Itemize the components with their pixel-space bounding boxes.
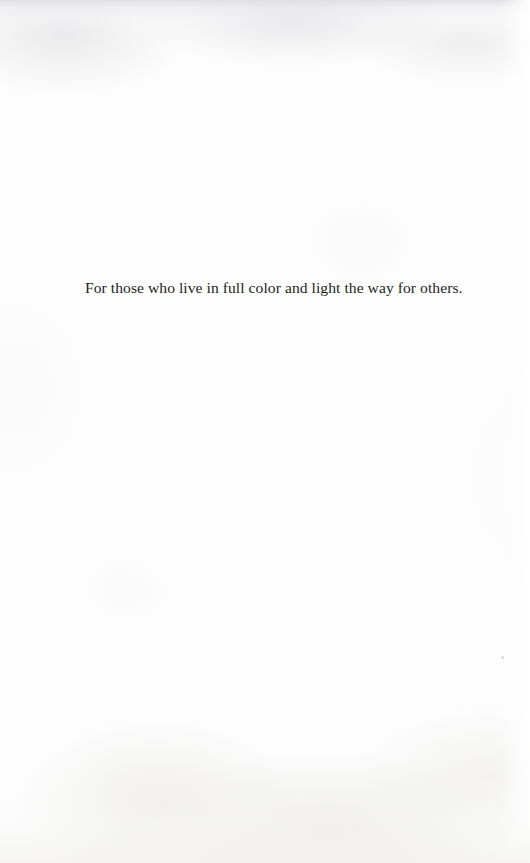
book-page: For those who live in full color and lig… <box>0 0 530 863</box>
paper-background <box>0 0 530 863</box>
dedication-text: For those who live in full color and lig… <box>85 278 445 298</box>
